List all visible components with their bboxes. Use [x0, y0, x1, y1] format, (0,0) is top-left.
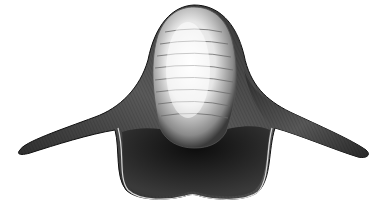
dome-highlight: [166, 22, 210, 118]
illustration: [0, 0, 383, 209]
shell-illustration: [0, 0, 383, 209]
